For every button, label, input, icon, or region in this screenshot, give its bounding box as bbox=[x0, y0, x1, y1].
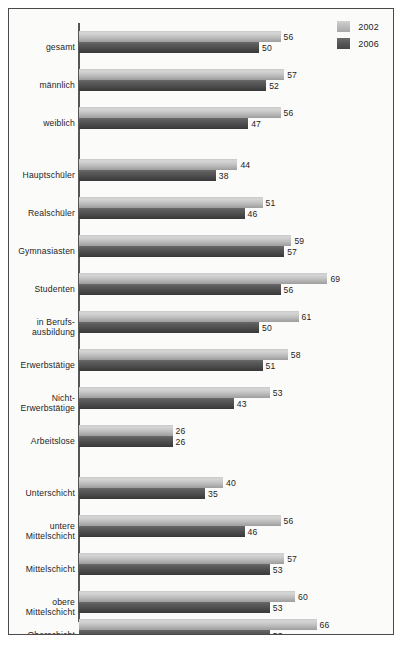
bar-2006 bbox=[79, 246, 284, 257]
category-label: Unterschicht bbox=[8, 488, 75, 499]
bar-row: 57 bbox=[79, 69, 297, 80]
bar-pair: 4438 bbox=[79, 159, 250, 181]
bar-row: 66 bbox=[79, 619, 329, 630]
bar-pair: 6053 bbox=[79, 591, 308, 613]
bar-2002 bbox=[79, 477, 223, 488]
bar-row: 57 bbox=[79, 553, 297, 564]
bar-pair: 6653 bbox=[79, 619, 329, 635]
bar-pair: 5650 bbox=[79, 31, 293, 53]
bar-2002 bbox=[79, 273, 327, 284]
category-label: Mittelschicht bbox=[8, 564, 75, 575]
bar-row: 59 bbox=[79, 235, 304, 246]
bar-value-label: 51 bbox=[266, 198, 276, 208]
bar-2006 bbox=[79, 118, 248, 129]
bar-value-label: 35 bbox=[208, 489, 218, 499]
category-label: Nicht- Erwerbstätige bbox=[8, 393, 75, 414]
bar-row: 26 bbox=[79, 425, 185, 436]
bar-value-label: 50 bbox=[262, 43, 272, 53]
bar-2002 bbox=[79, 591, 295, 602]
bar-value-label: 26 bbox=[176, 437, 186, 447]
bar-row: 53 bbox=[79, 630, 329, 635]
bar-pair: 6150 bbox=[79, 311, 311, 333]
bar-value-label: 53 bbox=[273, 603, 283, 613]
category-label: in Berufs- ausbildung bbox=[8, 317, 75, 338]
bar-2002 bbox=[79, 425, 173, 436]
bar-row: 46 bbox=[79, 526, 293, 537]
bar-2002 bbox=[79, 349, 288, 360]
bar-row: 50 bbox=[79, 42, 293, 53]
bar-2006 bbox=[79, 208, 245, 219]
bar-pair: 6956 bbox=[79, 273, 340, 295]
bar-value-label: 53 bbox=[273, 631, 283, 636]
bar-pair: 2626 bbox=[79, 425, 185, 447]
bar-value-label: 66 bbox=[320, 620, 330, 630]
bar-pair: 4035 bbox=[79, 477, 236, 499]
bar-2002 bbox=[79, 553, 284, 564]
bar-row: 50 bbox=[79, 322, 311, 333]
bar-row: 56 bbox=[79, 515, 293, 526]
bar-row: 43 bbox=[79, 398, 283, 409]
bar-pair: 5753 bbox=[79, 553, 297, 575]
category-label: gesamt bbox=[8, 42, 75, 53]
bar-row: 61 bbox=[79, 311, 311, 322]
bar-value-label: 46 bbox=[248, 209, 258, 219]
bar-2006 bbox=[79, 564, 270, 575]
bar-2002 bbox=[79, 69, 284, 80]
bar-row: 57 bbox=[79, 246, 304, 257]
bar-row: 56 bbox=[79, 284, 340, 295]
bar-value-label: 59 bbox=[294, 236, 304, 246]
bar-row: 53 bbox=[79, 387, 283, 398]
bar-2006 bbox=[79, 80, 266, 91]
bar-row: 52 bbox=[79, 80, 297, 91]
bar-row: 46 bbox=[79, 208, 275, 219]
bar-value-label: 52 bbox=[269, 81, 279, 91]
bar-value-label: 43 bbox=[237, 399, 247, 409]
bar-value-label: 58 bbox=[291, 350, 301, 360]
bar-2006 bbox=[79, 322, 259, 333]
bar-value-label: 47 bbox=[251, 119, 261, 129]
category-label: Hauptschüler bbox=[8, 170, 75, 181]
bar-row: 26 bbox=[79, 436, 185, 447]
bar-value-label: 46 bbox=[248, 527, 258, 537]
bar-2002 bbox=[79, 107, 281, 118]
bar-value-label: 56 bbox=[284, 516, 294, 526]
bar-2006 bbox=[79, 360, 263, 371]
bar-2006 bbox=[79, 170, 216, 181]
category-label: männlich bbox=[8, 80, 75, 91]
bar-2002 bbox=[79, 235, 291, 246]
bar-2002 bbox=[79, 515, 281, 526]
bar-2006 bbox=[79, 398, 234, 409]
bar-2002 bbox=[79, 159, 237, 170]
bar-value-label: 56 bbox=[284, 32, 294, 42]
bar-row: 47 bbox=[79, 118, 293, 129]
bar-row: 60 bbox=[79, 591, 308, 602]
bar-value-label: 57 bbox=[287, 247, 297, 257]
bar-value-label: 50 bbox=[262, 323, 272, 333]
bar-value-label: 38 bbox=[219, 171, 229, 181]
category-label: weiblich bbox=[8, 118, 75, 129]
bar-row: 51 bbox=[79, 197, 275, 208]
plot-area: gesamt5650männlich5752weiblich5647Haupts… bbox=[9, 9, 394, 635]
bar-value-label: 51 bbox=[266, 361, 276, 371]
bar-pair: 5146 bbox=[79, 197, 275, 219]
bar-2006 bbox=[79, 284, 281, 295]
bar-value-label: 53 bbox=[273, 565, 283, 575]
bar-row: 58 bbox=[79, 349, 301, 360]
bar-value-label: 69 bbox=[330, 274, 340, 284]
category-label: Studenten bbox=[8, 284, 75, 295]
category-label: Realschüler bbox=[8, 208, 75, 219]
bar-pair: 5646 bbox=[79, 515, 293, 537]
bar-value-label: 56 bbox=[284, 285, 294, 295]
bar-pair: 5647 bbox=[79, 107, 293, 129]
bar-row: 35 bbox=[79, 488, 236, 499]
bar-pair: 5752 bbox=[79, 69, 297, 91]
category-label: Erwerbstätige bbox=[8, 360, 75, 371]
bar-row: 38 bbox=[79, 170, 250, 181]
bar-row: 56 bbox=[79, 31, 293, 42]
bar-2006 bbox=[79, 42, 259, 53]
bar-value-label: 26 bbox=[176, 426, 186, 436]
bar-row: 40 bbox=[79, 477, 236, 488]
bar-value-label: 44 bbox=[240, 160, 250, 170]
bar-2006 bbox=[79, 436, 173, 447]
bar-pair: 5851 bbox=[79, 349, 301, 371]
